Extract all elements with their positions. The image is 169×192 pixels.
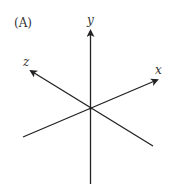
coordinate-axes-diagram: (A) y x z: [0, 0, 169, 192]
origin-point: [89, 107, 91, 109]
z-axis-line: [31, 71, 153, 146]
panel-label: (A): [14, 16, 32, 30]
z-axis-label: z: [22, 55, 30, 69]
y-axis-label: y: [86, 13, 94, 27]
x-axis-label: x: [155, 63, 162, 77]
